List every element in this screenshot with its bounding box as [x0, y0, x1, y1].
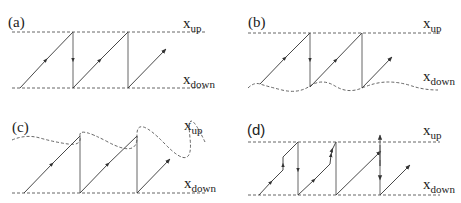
x-up-label: xup — [183, 15, 202, 34]
rising-trajectory — [259, 170, 283, 195]
x-down-label: xdown — [423, 68, 455, 87]
arrow-trajectory — [380, 165, 410, 195]
diagram-canvas: (a) xup xdown (b) xup xdown (c) xup xdow… — [0, 0, 461, 203]
x-up-label: xup — [423, 15, 442, 34]
rising-trajectory — [260, 33, 310, 84]
arrow-trajectory — [137, 159, 170, 193]
panel-a: (a) xup xdown — [8, 14, 215, 90]
x-down-label: xdown — [423, 176, 455, 195]
rising-trajectory — [80, 136, 137, 193]
x-up-label: xup — [423, 122, 442, 141]
jump-up-trajectory — [330, 146, 334, 164]
rising-trajectory — [24, 136, 80, 193]
arrow-trajectory — [128, 49, 166, 88]
x-up-label: xup — [184, 117, 203, 136]
panel-label-d: (d) — [247, 121, 265, 138]
rising-trajectory — [20, 32, 73, 88]
panel-label-c: (c) — [12, 119, 29, 136]
panel-label-a: (a) — [8, 14, 25, 31]
rising-trajectory — [298, 164, 330, 195]
panel-c: (c) xup xdown — [12, 117, 216, 194]
x-down-label: xdown — [184, 175, 216, 194]
x-down-label: xdown — [183, 71, 215, 90]
rising-trajectory — [283, 142, 298, 157]
panel-label-b: (b) — [248, 14, 266, 31]
upper-boundary-wavy — [12, 121, 205, 158]
panel-d: (d) xup xdown — [247, 121, 455, 195]
lower-boundary-wavy — [248, 82, 438, 91]
arrow-trajectory — [336, 151, 381, 195]
panel-b: (b) xup xdown — [248, 14, 455, 91]
rising-trajectory — [73, 32, 128, 88]
rising-trajectory — [310, 33, 362, 87]
